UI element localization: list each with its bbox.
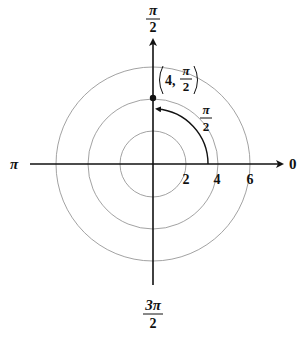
polar-diagram: π 2 π 0 3π 2 2 4 6 4, π 2 π 2 (0, 0, 297, 345)
svg-text:π: π (202, 102, 210, 117)
angle-label-zero: 0 (289, 156, 297, 172)
svg-text:2: 2 (150, 316, 157, 331)
angle-label-pi-over-2: π 2 (146, 2, 160, 35)
svg-text:2: 2 (150, 20, 157, 35)
svg-text:π: π (182, 63, 190, 78)
svg-text:3π: 3π (144, 297, 162, 313)
angle-label-pi: π (10, 156, 19, 172)
svg-text:2: 2 (203, 119, 210, 134)
svg-text:2: 2 (183, 79, 190, 94)
arc-angle-label: π 2 (200, 102, 212, 134)
svg-text:4,: 4, (165, 73, 176, 88)
angle-arc (157, 109, 208, 164)
radius-label-4: 4 (214, 172, 221, 187)
angle-label-3pi-over-2: 3π 2 (143, 297, 163, 331)
radius-label-6: 6 (247, 172, 254, 187)
radius-label-2: 2 (183, 172, 190, 187)
point-marker (150, 95, 156, 101)
svg-text:π: π (149, 2, 158, 18)
